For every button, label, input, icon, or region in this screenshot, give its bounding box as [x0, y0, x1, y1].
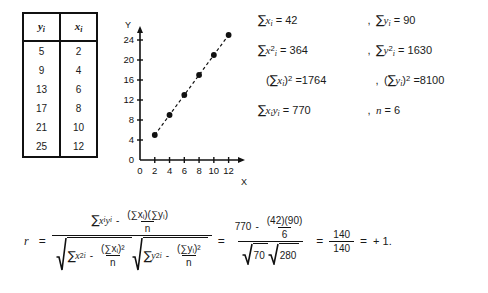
inner-fraction-y: (∑yᵢ)²n — [173, 243, 205, 268]
y-axis-arrow — [137, 26, 143, 33]
stat-sum-y2-eq: = — [398, 44, 404, 56]
x-tick-label: 8 — [196, 165, 201, 176]
sigma-icon: ∑ — [258, 13, 266, 27]
stat-n-eq: = — [385, 104, 391, 116]
column-header-x: xi — [60, 14, 96, 41]
inner-fraction-x: (∑xᵢ)²n — [97, 243, 129, 268]
stat-n: n = 6 — [376, 105, 400, 116]
minus-operator: - — [112, 215, 123, 226]
minus-operator: - — [162, 250, 173, 261]
numeric-first-term: 770 — [235, 221, 252, 232]
stat-sum-y-squared: ∑y2i = 1630 — [376, 44, 432, 58]
inner-num-x: (∑xᵢ)² — [97, 243, 129, 255]
scatter-plot-svg: 04812162024024681012YX — [112, 14, 252, 186]
numeric-numerator: 770-(42)(90)6 — [231, 215, 311, 241]
cell-y: 5 — [24, 41, 60, 61]
stat-sum-y-value: 90 — [403, 14, 415, 26]
stat-sum-x-sub: i — [270, 19, 272, 28]
formula-lead-r: r — [24, 234, 33, 249]
data-point — [196, 72, 202, 78]
cell-y: 21 — [24, 118, 60, 137]
formula-equals-1: = — [33, 234, 52, 248]
x-axis-arrow — [238, 157, 245, 163]
data-point — [211, 52, 217, 58]
y-tick-label: 12 — [123, 94, 134, 105]
stat-separator: , — [362, 105, 376, 116]
sigma-icon: ∑ — [376, 13, 384, 27]
x-tick-label: 2 — [152, 165, 157, 176]
stat-sum-xy: ∑xiyi = 770 — [258, 104, 362, 118]
y-tick-label: 8 — [129, 114, 134, 125]
cell-y: 13 — [24, 80, 60, 99]
cell-y: 25 — [24, 137, 60, 156]
y-tick-label: 0 — [129, 154, 134, 165]
cell-y: 17 — [24, 99, 60, 118]
stat-sum-y-sub: i — [388, 19, 390, 28]
stat-row-sumxy-n: ∑xiyi = 770 , n = 6 — [258, 104, 484, 134]
numeric-fraction: 770-(42)(90)6 70280 — [231, 215, 311, 267]
radical-y: ∑y2i-(∑yᵢ)²n — [132, 237, 208, 271]
y-axis-label: Y — [125, 20, 131, 30]
minus-operator: - — [86, 250, 97, 261]
table-row: 21 10 — [24, 118, 96, 137]
sigma-icon: ∑ — [91, 213, 99, 227]
inner-den-n: n — [182, 255, 196, 268]
table-row: 13 6 — [24, 80, 96, 99]
stat-sum-x2-sub: i — [275, 49, 277, 58]
cell-x: 2 — [60, 41, 96, 61]
formula-equals-2: = — [212, 234, 231, 248]
stat-sum-y-eq: = — [394, 14, 400, 26]
column-header-y: yi — [24, 14, 60, 41]
stat-sum-x-squared: ∑x2i = 364 — [258, 44, 362, 58]
sqrt-icon — [132, 237, 143, 271]
sum-y2-term: ∑y2i — [144, 249, 162, 263]
data-table: yi xi 5 2 9 4 13 6 17 8 — [22, 12, 98, 158]
cell-x: 4 — [60, 61, 96, 80]
formula-result-value: + 1. — [373, 235, 396, 247]
y-tick-label: 4 — [129, 134, 134, 145]
table-row: 5 2 — [24, 41, 96, 61]
inner-fraction-xy: (∑xᵢ)(∑yᵢ)n — [123, 209, 172, 234]
stat-row-sums: ∑xi = 42 , ∑yi = 90 — [258, 14, 484, 44]
stat-n-base: n — [376, 104, 382, 116]
stat-separator: , — [362, 45, 376, 56]
inner-den-n: n — [106, 255, 120, 268]
stat-psx-sup: 2 — [288, 74, 292, 83]
radical-x-body: ∑x2i-(∑xᵢ)²n — [67, 237, 132, 271]
radical-70: 70 — [242, 243, 268, 265]
stat-sum-x2-value: 364 — [290, 44, 308, 56]
radical-280-body: 280 — [279, 243, 300, 265]
result-numerator: 140 — [329, 229, 354, 241]
cell-y: 9 — [24, 61, 60, 80]
stat-sum-x2-eq: = — [280, 44, 286, 56]
sum-x2-term: ∑x2i — [68, 249, 86, 263]
sqrt-icon — [242, 243, 253, 265]
column-header-y-sub: i — [43, 25, 45, 34]
symbolic-denominator: ∑x2i-(∑xᵢ)²n∑y2i-(∑yᵢ)²n — [52, 235, 212, 273]
scatter-plot: 04812162024024681012YX — [112, 14, 252, 186]
sigma-icon: ∑ — [258, 103, 266, 117]
table-row: 17 8 — [24, 99, 96, 118]
cell-x: 12 — [60, 137, 96, 156]
stat-sum-y2-value: 1630 — [408, 44, 432, 56]
symbolic-fraction: ∑xiyi-(∑xᵢ)(∑yᵢ)n ∑x2i-(∑xᵢ)²n∑y2i-(∑yᵢ)… — [52, 209, 212, 273]
formula-row: r = ∑xiyi-(∑xᵢ)(∑yᵢ)n ∑x2i-(∑xᵢ)²n∑y2i-(… — [24, 196, 474, 286]
correlation-coefficient-formula: r = ∑xiyi-(∑xᵢ)(∑yᵢ)n ∑x2i-(∑xᵢ)²n∑y2i-(… — [24, 196, 474, 286]
xy-data-table: yi xi 5 2 9 4 13 6 17 8 — [24, 14, 96, 156]
y-tick-label: 16 — [123, 74, 134, 85]
radical-280: 280 — [268, 243, 300, 265]
result-fraction: 140 140 — [329, 229, 354, 254]
numeric-inner-fraction: (42)(90)6 — [263, 215, 307, 240]
formula-equals-final: = — [354, 234, 373, 248]
stat-psy-value: 8100 — [420, 74, 444, 86]
table-body: 5 2 9 4 13 6 17 8 21 10 25 12 — [24, 41, 96, 156]
data-point — [167, 112, 173, 118]
stat-n-value: 6 — [394, 104, 400, 116]
summary-statistics: ∑xi = 42 , ∑yi = 90 ∑x2i = 364 , ∑y2i = … — [258, 14, 484, 134]
inner-num-y: (∑yᵢ)² — [173, 243, 205, 255]
numeric-denominator: 70280 — [238, 241, 304, 267]
trendline — [155, 35, 229, 135]
x-tick-label: 12 — [223, 165, 234, 176]
stat-sum-y2-sub: i — [393, 49, 395, 58]
stat-sum-x-eq: = — [276, 14, 282, 26]
